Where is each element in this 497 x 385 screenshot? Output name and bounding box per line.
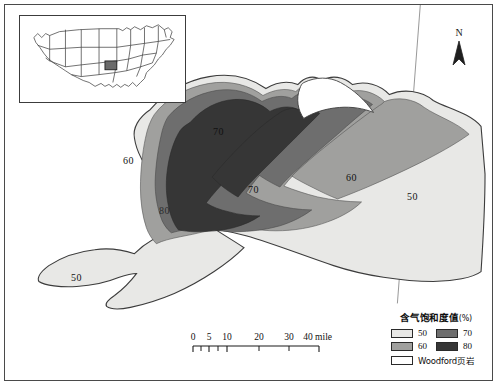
scale-tick-20: 20: [254, 332, 264, 342]
us-national-outline: [34, 25, 174, 88]
map-frame: N 60 70 70 80 60 50 50 0 5 10 20 30 40 m…: [4, 4, 493, 381]
legend-label-60: 60: [418, 341, 427, 351]
scale-tick-0: 0: [191, 332, 196, 342]
scale-end-label: 40 mile: [303, 332, 332, 342]
scale-bar-graphic: [191, 344, 323, 356]
scale-tick-30: 30: [284, 332, 294, 342]
legend-label-50: 50: [418, 328, 427, 338]
contour-label-60-east: 60: [346, 172, 357, 183]
legend-swatch-80: [436, 342, 458, 351]
legend-entry-woodford: Woodford页岩: [391, 354, 475, 366]
legend-entry-80: 80: [436, 341, 481, 351]
legend-row-3: Woodford页岩: [391, 354, 481, 366]
legend-entry-60: 60: [391, 341, 436, 351]
inset-us-map-svg: [20, 16, 185, 102]
legend-swatch-60: [391, 342, 413, 351]
legend-label-80: 80: [463, 341, 472, 351]
legend-entry-70: 70: [436, 328, 481, 338]
legend-title-text: 含气饱和度值: [400, 312, 459, 323]
legend-label-70: 70: [463, 328, 472, 338]
contour-label-50-east: 50: [407, 191, 418, 202]
inset-locator-map: [19, 15, 186, 103]
scale-bar-tick-labels: 0 5 10 20 30 40 mile: [191, 332, 323, 344]
contour-label-80-core: 80: [159, 205, 170, 216]
legend-entry-50: 50: [391, 328, 436, 338]
scale-tick-10: 10: [222, 332, 232, 342]
legend-row-1: 50 70: [391, 328, 481, 338]
figure-root: N 60 70 70 80 60 50 50 0 5 10 20 30 40 m…: [0, 0, 497, 385]
contour-label-60-west: 60: [123, 155, 134, 166]
scale-tick-5: 5: [207, 332, 212, 342]
study-area-highlight-box: [105, 61, 117, 70]
legend-swatch-70: [436, 329, 458, 338]
legend-row-2: 60 80: [391, 341, 481, 351]
north-arrow: N: [444, 27, 474, 71]
legend-title: 含气饱和度值(%): [391, 310, 481, 324]
north-arrow-icon: [444, 38, 474, 68]
scale-bar: 0 5 10 20 30 40 mile: [191, 332, 323, 358]
legend-title-unit: (%): [459, 314, 472, 323]
legend-swatch-50: [391, 329, 413, 338]
contour-label-70-north: 70: [213, 126, 224, 137]
legend-swatch-woodford: [391, 356, 413, 365]
legend: 含气饱和度值(%) 50 70 60 80: [388, 308, 484, 372]
north-arrow-label: N: [444, 27, 474, 38]
legend-label-woodford: Woodford页岩: [418, 354, 475, 366]
contour-label-70-central: 70: [248, 184, 259, 195]
contour-label-50-southwest: 50: [71, 272, 82, 283]
